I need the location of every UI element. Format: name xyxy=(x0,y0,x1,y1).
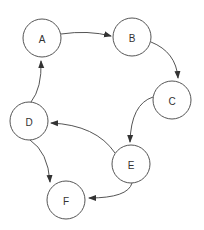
node-label: D xyxy=(25,117,32,128)
edge-arrow xyxy=(130,97,153,142)
node-a: A xyxy=(23,19,61,57)
node-label: B xyxy=(129,33,136,44)
node-e: E xyxy=(112,145,150,183)
edge-arrow xyxy=(31,61,41,102)
node-label: F xyxy=(63,196,69,207)
edge-d-to-f xyxy=(30,140,50,182)
edge-arrow xyxy=(61,32,111,36)
node-label: A xyxy=(39,34,46,45)
edge-c-to-e xyxy=(130,97,153,142)
edge-arrow xyxy=(51,123,115,153)
node-d: D xyxy=(10,102,48,140)
node-label: E xyxy=(128,160,135,171)
node-b: B xyxy=(113,18,151,56)
edge-arrow xyxy=(151,42,178,78)
nodes-group: A B C D E F xyxy=(10,18,191,219)
node-label: C xyxy=(168,96,175,107)
edge-b-to-c xyxy=(151,42,178,78)
edge-e-to-d xyxy=(51,123,115,153)
node-c: C xyxy=(153,81,191,119)
edges-group xyxy=(30,32,178,198)
edge-arrow xyxy=(89,183,132,198)
node-f: F xyxy=(47,181,85,219)
edge-d-to-a xyxy=(31,61,41,102)
directed-graph-diagram: A B C D E F xyxy=(0,0,204,230)
edge-e-to-f xyxy=(89,183,132,198)
edge-a-to-b xyxy=(61,32,111,36)
edge-arrow xyxy=(30,140,50,182)
